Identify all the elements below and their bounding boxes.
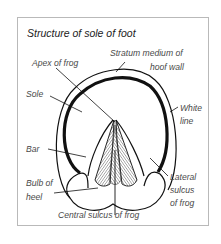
label-lateral-sulcus-2: sulcus: [170, 185, 194, 196]
label-white-line-2: line: [180, 116, 193, 127]
label-lateral-sulcus-3: of frog: [170, 198, 194, 209]
label-central-sulcus: Central sulcus of frog: [58, 210, 139, 221]
label-sole: Sole: [26, 89, 43, 100]
label-bulb-of-heel: Bulb of: [26, 178, 53, 189]
label-stratum-medium-2: hoof wall: [150, 62, 184, 73]
label-lateral-sulcus: Lateral: [170, 172, 196, 183]
label-apex-of-frog: Apex of frog: [32, 58, 78, 69]
label-bar: Bar: [26, 144, 39, 155]
label-stratum-medium: Stratum medium of: [110, 48, 183, 59]
label-white-line: White: [180, 103, 202, 114]
label-bulb-of-heel-2: heel: [26, 192, 42, 203]
